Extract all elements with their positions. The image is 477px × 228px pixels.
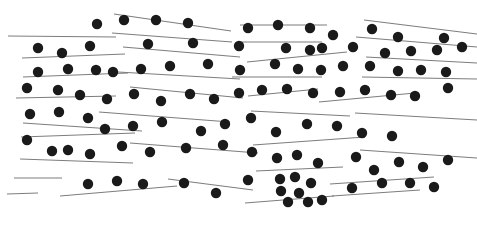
scatter-dot xyxy=(273,20,283,30)
scatter-dot xyxy=(138,179,148,189)
scatter-dot xyxy=(211,188,221,198)
scatter-dot xyxy=(85,149,95,159)
scatter-dot xyxy=(429,182,439,192)
scatter-dot xyxy=(136,64,146,74)
scatter-dot xyxy=(119,15,129,25)
scatter-dot xyxy=(380,48,390,58)
scatter-dot xyxy=(185,89,195,99)
scatter-dot xyxy=(317,43,327,53)
scatter-dot xyxy=(243,23,253,33)
scatter-dot xyxy=(54,107,64,117)
scatter-dot xyxy=(441,67,451,77)
scatter-dot xyxy=(156,96,166,106)
scatter-dot xyxy=(33,67,43,77)
scatter-dot xyxy=(290,172,300,182)
canvas-background xyxy=(0,0,477,228)
scatter-dot xyxy=(243,175,253,185)
scatter-dot xyxy=(443,83,453,93)
scatter-dot xyxy=(63,64,73,74)
scatter-dot xyxy=(293,64,303,74)
scatter-dot xyxy=(328,30,338,40)
scatter-dot xyxy=(317,195,327,205)
scatter-dot xyxy=(386,90,396,100)
scatter-dot xyxy=(151,15,161,25)
scatter-dot xyxy=(53,85,63,95)
scatter-dot xyxy=(57,48,67,58)
scatter-dot xyxy=(416,65,426,75)
scatter-dot xyxy=(338,61,348,71)
scatter-dot xyxy=(457,42,467,52)
scatter-dot xyxy=(257,85,267,95)
scatter-dot xyxy=(357,128,367,138)
scatter-dot xyxy=(234,41,244,51)
scatter-dot xyxy=(405,178,415,188)
scatter-dot xyxy=(283,197,293,207)
scatter-dot xyxy=(100,124,110,134)
scatter-dot xyxy=(365,61,375,71)
scatter-dot xyxy=(75,90,85,100)
scatter-dot xyxy=(393,32,403,42)
scatter-dot xyxy=(410,91,420,101)
scatter-dot xyxy=(92,19,102,29)
scatter-dot xyxy=(348,42,358,52)
scatter-dot xyxy=(129,89,139,99)
scatter-dot xyxy=(443,155,453,165)
scatter-dot xyxy=(281,43,291,53)
scatter-dot xyxy=(308,88,318,98)
scatter-dot xyxy=(316,65,326,75)
scatter-dot xyxy=(83,179,93,189)
scatter-dot xyxy=(47,146,57,156)
scatter-dot xyxy=(196,126,206,136)
scatter-dot xyxy=(294,188,304,198)
scatter-dot xyxy=(367,24,377,34)
scatter-dot xyxy=(22,135,32,145)
scatter-dot xyxy=(351,152,361,162)
scatter-dot xyxy=(145,147,155,157)
scatter-dot xyxy=(369,165,379,175)
scatter-dot xyxy=(332,121,342,131)
scatter-pattern-canvas xyxy=(0,0,477,228)
scatter-dot xyxy=(406,46,416,56)
scatter-dot xyxy=(209,94,219,104)
scatter-dot xyxy=(282,84,292,94)
scatter-dot xyxy=(246,113,256,123)
scatter-dot xyxy=(203,59,213,69)
scatter-dot xyxy=(305,45,315,55)
scatter-dot xyxy=(247,147,257,157)
scatter-dot xyxy=(83,113,93,123)
scatter-dot xyxy=(360,85,370,95)
scatter-dot xyxy=(347,183,357,193)
scatter-dot xyxy=(63,145,73,155)
scatter-dot xyxy=(276,186,286,196)
scatter-dot xyxy=(33,43,43,53)
scatter-figure xyxy=(0,0,477,228)
scatter-dot xyxy=(377,178,387,188)
scatter-dot xyxy=(85,41,95,51)
scatter-dot xyxy=(306,178,316,188)
scatter-dot xyxy=(108,67,118,77)
scatter-dot xyxy=(181,143,191,153)
scatter-dot xyxy=(271,127,281,137)
scatter-dot xyxy=(393,66,403,76)
scatter-dot xyxy=(275,174,285,184)
scatter-dot xyxy=(218,140,228,150)
scatter-dot xyxy=(25,109,35,119)
scatter-dot xyxy=(234,88,244,98)
scatter-dot xyxy=(102,94,112,104)
scatter-dot xyxy=(188,38,198,48)
scatter-dot xyxy=(183,18,193,28)
scatter-dot xyxy=(220,119,230,129)
scatter-dot xyxy=(272,153,282,163)
scatter-dot xyxy=(335,87,345,97)
scatter-dot xyxy=(292,150,302,160)
scatter-dot xyxy=(143,39,153,49)
scatter-dot xyxy=(432,45,442,55)
scatter-dot xyxy=(235,65,245,75)
scatter-dot xyxy=(165,61,175,71)
scatter-dot xyxy=(418,162,428,172)
scatter-dot xyxy=(305,23,315,33)
scatter-dot xyxy=(387,131,397,141)
scatter-dot xyxy=(270,59,280,69)
scatter-dot xyxy=(157,117,167,127)
scatter-dot xyxy=(303,197,313,207)
